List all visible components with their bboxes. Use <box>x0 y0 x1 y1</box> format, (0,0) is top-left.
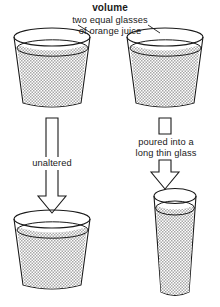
glass-bottom-left <box>10 210 94 299</box>
glass-bottom-right <box>150 189 200 303</box>
juice-fill <box>123 45 207 115</box>
juice-fill <box>150 206 200 302</box>
glass-top-left <box>10 28 94 115</box>
caption-line-2: of orange juice <box>0 26 220 37</box>
arrow-label-poured: poured into a long thin glass <box>117 136 215 159</box>
arrow-shaft-head <box>151 160 179 189</box>
page-title: volume <box>0 2 220 14</box>
volume-conservation-diagram: volume two equal glasses of orange juice… <box>0 0 220 307</box>
arrow-label-poured-line-2: long thin glass <box>117 148 215 159</box>
arrow-label-unaltered: unaltered <box>13 157 91 170</box>
juice-fill <box>10 45 94 115</box>
arrow-label-poured-line-1: poured into a <box>138 137 194 147</box>
glass-top-right <box>123 28 207 115</box>
caption-line-1: two equal glasses <box>72 15 148 25</box>
arrow-shaft-upper <box>159 118 171 134</box>
caption: two equal glasses of orange juice <box>0 15 220 36</box>
